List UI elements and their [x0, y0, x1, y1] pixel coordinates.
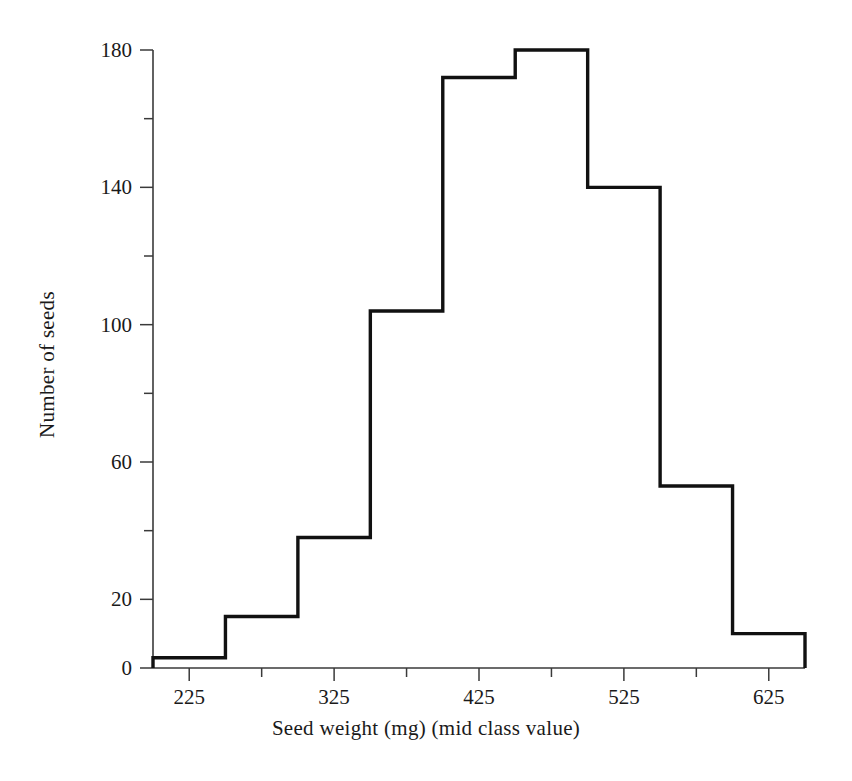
- histogram-step-line: [153, 50, 805, 668]
- x-axis-title: Seed weight (mg) (mid class value): [0, 716, 852, 741]
- histogram-figure: 02060100140180225325425525625 Number of …: [0, 0, 852, 781]
- axes: [153, 50, 805, 668]
- x-tick-label-425: 425: [463, 685, 495, 709]
- chart-canvas: 02060100140180225325425525625: [0, 0, 852, 781]
- x-tick-label-325: 325: [318, 685, 350, 709]
- histogram-outline: [153, 50, 805, 668]
- x-tick-label-625: 625: [753, 685, 785, 709]
- x-tick-label-525: 525: [608, 685, 640, 709]
- y-tick-label-100: 100: [101, 313, 133, 337]
- axis-ticks: [140, 50, 769, 681]
- y-tick-label-20: 20: [111, 587, 132, 611]
- x-tick-label-225: 225: [173, 685, 205, 709]
- y-tick-label-0: 0: [122, 656, 133, 680]
- y-axis-title: Number of seeds: [35, 245, 60, 485]
- y-tick-label-180: 180: [101, 38, 133, 62]
- y-tick-label-60: 60: [111, 450, 132, 474]
- y-tick-label-140: 140: [101, 175, 133, 199]
